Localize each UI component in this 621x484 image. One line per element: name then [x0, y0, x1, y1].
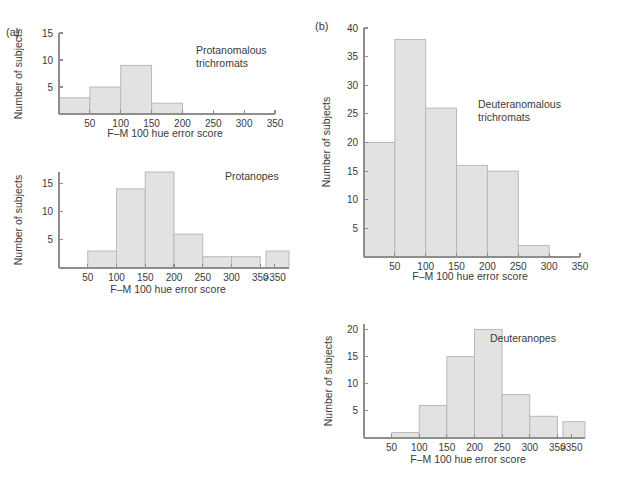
y-axis-title: Number of subjects [12, 29, 24, 119]
y-axis-tick-label: 25 [347, 108, 359, 119]
histogram-bar [174, 234, 203, 268]
histogram-bar [392, 433, 420, 438]
histogram-bar [487, 171, 518, 257]
x-axis-title: F–M 100 hue error score [107, 127, 223, 139]
y-axis-tick-label: 5 [352, 223, 358, 234]
y-axis-title: Number of subjects [12, 175, 24, 265]
x-axis-title: F–M 100 hue error score [412, 270, 528, 282]
x-axis-tick-label: 50 [84, 118, 96, 129]
y-axis-tick-label: 5 [47, 234, 53, 245]
series-annotation-line: trichromats [196, 57, 248, 69]
x-axis-tick-label: >350 [263, 272, 286, 283]
x-axis-tick-label: 250 [494, 442, 511, 453]
series-annotation-line: Deuteranopes [490, 332, 556, 344]
x-axis-tick-label: 50 [82, 272, 94, 283]
y-axis-tick-label: 20 [347, 324, 359, 335]
histogram-bar [145, 172, 174, 268]
histogram-bar [88, 251, 117, 268]
x-axis-tick-label: 200 [466, 442, 483, 453]
series-annotation-line: trichromats [478, 111, 530, 123]
y-axis-tick-label: 15 [347, 351, 359, 362]
histogram-bar [447, 357, 475, 438]
y-axis-tick-label: 20 [347, 137, 359, 148]
x-axis-tick-label: 150 [439, 442, 456, 453]
x-axis-title: F–M 100 hue error score [110, 283, 226, 295]
histogram-figure: (a) (b) 5010015020025030035051015F–M 100… [0, 0, 621, 484]
histogram-bar [475, 329, 503, 438]
y-axis-title: Number of subjects [322, 336, 334, 426]
histogram-bar [266, 251, 289, 268]
y-axis-tick-label: 15 [42, 28, 54, 39]
x-axis-tick-label: 350 [267, 118, 284, 129]
x-axis-tick-label: 300 [236, 118, 253, 129]
y-axis-tick-label: 15 [347, 166, 359, 177]
histogram-bar [117, 189, 146, 268]
y-axis-tick-label: 10 [347, 194, 359, 205]
series-annotation-line: Protanopes [225, 170, 279, 182]
y-axis-tick-label: 15 [42, 178, 54, 189]
series-annotation: Deuteranopes [490, 332, 556, 344]
histogram-bar [203, 257, 232, 268]
y-axis-tick-label: 5 [352, 405, 358, 416]
x-axis-tick-label: 300 [521, 442, 538, 453]
y-axis-tick-label: 30 [347, 80, 359, 91]
y-axis-tick-label: 10 [42, 206, 54, 217]
x-axis-tick-label: 250 [194, 272, 211, 283]
x-axis-tick-label: 300 [223, 272, 240, 283]
histogram-bar [419, 405, 447, 438]
histogram-bar [518, 246, 549, 257]
x-axis-tick-label: 100 [411, 442, 428, 453]
y-axis-tick-label: 10 [42, 55, 54, 66]
x-axis-tick-label: 200 [166, 272, 183, 283]
histogram-bar [530, 416, 558, 438]
series-annotation-line: Protanomalous [196, 44, 267, 56]
histogram-bar [457, 165, 488, 257]
x-axis-tick-label: >350 [560, 442, 583, 453]
y-axis-tick-label: 5 [47, 82, 53, 93]
histogram-bar [59, 98, 90, 114]
histogram-bar [426, 108, 457, 257]
x-axis-tick-label: 300 [541, 261, 558, 272]
histogram-bar [563, 422, 585, 438]
series-annotation-line: Deuteranomalous [478, 98, 561, 110]
x-axis-tick-label: 150 [137, 272, 154, 283]
histogram-bar [395, 39, 426, 257]
histogram-bar [232, 257, 261, 268]
histogram-bar [364, 143, 395, 258]
histogram-bar [121, 65, 152, 114]
histogram-bar [502, 395, 530, 438]
histogram-bar [152, 103, 183, 114]
x-axis-title: F–M 100 hue error score [410, 453, 526, 465]
y-axis-tick-label: 10 [347, 378, 359, 389]
panel-label-b: (b) [315, 20, 328, 32]
x-axis-tick-label: 50 [389, 261, 401, 272]
x-axis-tick-label: 100 [108, 272, 125, 283]
y-axis-title: Number of subjects [320, 97, 332, 187]
y-axis-tick-label: 35 [347, 51, 359, 62]
x-axis-tick-label: 350 [572, 261, 589, 272]
series-annotation: Protanopes [225, 170, 279, 182]
y-axis-tick-label: 40 [347, 23, 359, 34]
histogram-bar [90, 87, 121, 114]
x-axis-tick-label: 50 [386, 442, 398, 453]
